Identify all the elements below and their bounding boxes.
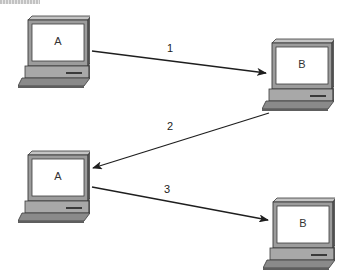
arrow-1 bbox=[92, 51, 266, 73]
arrow-3 bbox=[92, 187, 268, 220]
computer-label: B bbox=[293, 217, 313, 229]
computer-b-bottom: B bbox=[263, 196, 335, 272]
arrow-1-label: 1 bbox=[164, 42, 176, 54]
computer-icon bbox=[18, 14, 90, 90]
computer-label: B bbox=[292, 58, 312, 70]
computer-icon bbox=[263, 196, 335, 272]
computer-a-top: A bbox=[18, 14, 90, 90]
arrow-2 bbox=[93, 113, 269, 168]
diagram-canvas: 1 2 3 A B bbox=[0, 0, 351, 277]
computer-label: A bbox=[48, 35, 68, 47]
computer-label: A bbox=[48, 170, 68, 182]
computer-a-bottom: A bbox=[18, 149, 90, 225]
computer-icon bbox=[18, 149, 90, 225]
arrow-3-label: 3 bbox=[161, 183, 173, 195]
arrow-2-label: 2 bbox=[164, 120, 176, 132]
computer-b-top: B bbox=[262, 37, 334, 113]
computer-icon bbox=[262, 37, 334, 113]
